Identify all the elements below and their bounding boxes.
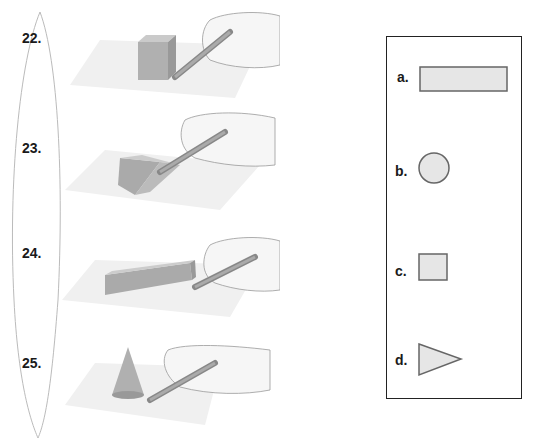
question-number-24: 24. — [22, 245, 41, 261]
option-d-label: d. — [395, 352, 407, 368]
scene-rectangular-prism — [60, 235, 280, 335]
option-c-label: c. — [395, 263, 407, 279]
scene-triangular-prism — [60, 110, 280, 220]
answer-choices-box: a. b. c. d. — [386, 36, 522, 399]
scene-cube — [60, 10, 280, 110]
question-number-22: 22. — [22, 30, 41, 46]
rectangle-shape-icon[interactable] — [419, 66, 509, 94]
hand-with-crayon-icon — [150, 345, 270, 400]
question-number-25: 25. — [22, 355, 41, 371]
option-a-label: a. — [397, 69, 409, 85]
cube-solid — [138, 35, 176, 80]
hand-with-crayon-icon — [195, 238, 280, 292]
question-number-23: 23. — [22, 140, 41, 156]
scene-cone — [60, 345, 280, 438]
circle-shape-icon[interactable] — [417, 151, 451, 185]
triangle-shape-icon[interactable] — [418, 342, 464, 378]
hand-with-crayon-icon — [160, 113, 275, 172]
option-b-label: b. — [395, 163, 407, 179]
square-shape-icon[interactable] — [418, 253, 450, 283]
